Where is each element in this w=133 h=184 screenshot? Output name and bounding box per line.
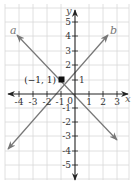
x-axis-label: x: [125, 93, 131, 104]
x-tick-label: -3: [29, 97, 38, 107]
y-tick-label: -3: [62, 131, 71, 141]
x-tick-label: 3: [114, 97, 120, 107]
y-tick-label: 3: [65, 46, 71, 56]
x-tick-label: -4: [15, 97, 24, 107]
coordinate-plane: -4 -3 -2 -1 0 1 2 3 5 4 3 2 1 -1 -2 -3 -…: [0, 0, 133, 184]
line-a-label: a: [10, 24, 17, 37]
y-tick-label: 1: [79, 75, 85, 85]
y-tick-label: -5: [62, 160, 71, 170]
point-label: (−1, 1): [24, 75, 56, 85]
x-tick-label: 1: [86, 97, 92, 107]
y-tick-label: -2: [62, 117, 71, 127]
x-tick-label: 2: [100, 97, 106, 107]
line-b: [8, 35, 108, 149]
x-tick-label: -2: [43, 97, 52, 107]
y-tick-label: -1: [62, 103, 71, 113]
y-tick-label: -4: [62, 146, 71, 156]
y-tick-label: 2: [65, 60, 71, 70]
y-tick-label: 4: [65, 31, 71, 41]
point-marker: [59, 77, 65, 83]
y-tick-label: 5: [65, 17, 71, 27]
y-axis-label: y: [65, 5, 72, 16]
line-b-label: b: [110, 24, 117, 37]
